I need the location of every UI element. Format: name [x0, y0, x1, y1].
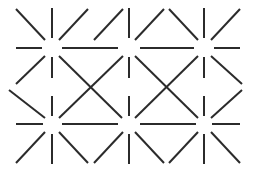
line-lattice-figure	[0, 0, 257, 174]
figure-canvas	[0, 0, 257, 174]
